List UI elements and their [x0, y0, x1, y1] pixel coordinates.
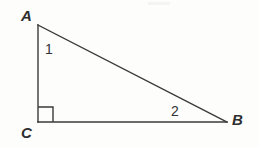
right-angle-marker-icon	[38, 107, 53, 122]
vertex-label-a: A	[21, 8, 32, 23]
geometry-figure: A B C 1 2	[0, 0, 259, 148]
angle-label-2: 2	[171, 104, 179, 118]
angle-label-1: 1	[45, 42, 53, 56]
hypotenuse-AB-line	[38, 25, 227, 122]
triangle-drawing	[0, 0, 259, 148]
vertex-label-b: B	[232, 112, 243, 127]
vertex-label-c: C	[21, 125, 32, 140]
